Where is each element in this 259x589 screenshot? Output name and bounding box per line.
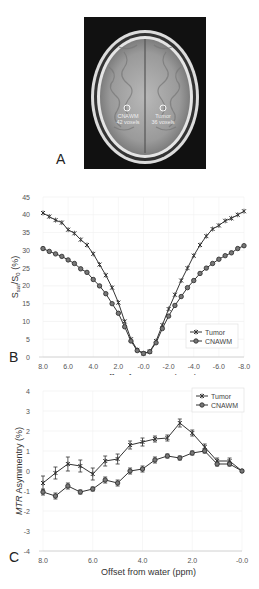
svg-text:40: 40 <box>22 211 30 218</box>
cnawm-marker-o <box>173 303 177 307</box>
svg-text:Tumor: Tumor <box>211 393 232 400</box>
tumor-marker-x <box>173 292 177 297</box>
cnawm-marker-o <box>190 451 194 455</box>
cnawm-marker-o <box>97 284 101 288</box>
svg-text:-6.0: -6.0 <box>213 363 225 370</box>
cnawm-marker-o <box>192 278 196 282</box>
cnawm-marker-o <box>110 301 114 305</box>
tumor-marker-x <box>60 220 64 225</box>
svg-text:-0.0: -0.0 <box>236 557 248 564</box>
cnawm-marker-o <box>104 292 108 296</box>
cnawm-marker-o <box>66 484 70 488</box>
x-axis-label: Offset from water (ppm) <box>101 567 196 577</box>
cnawm-marker-o <box>210 261 214 265</box>
svg-text:5: 5 <box>26 336 30 343</box>
svg-text:-4: -4 <box>24 548 30 555</box>
cnawm-marker-o <box>178 456 182 460</box>
cnawm-marker-o <box>165 454 169 458</box>
cnawm-marker-o <box>41 490 45 494</box>
tumor-marker-x <box>53 471 57 476</box>
legend: TumorCNAWM <box>186 324 238 348</box>
cnawm-marker-o <box>215 462 219 466</box>
svg-text:2.0: 2.0 <box>187 557 197 564</box>
legend-item-cnawm: CNAWM <box>190 338 232 345</box>
cnawm-marker-o <box>53 252 57 256</box>
x-axis-label: Offset from water (ppm) <box>102 373 197 375</box>
y-tick-labels: 051015202530354045 <box>22 194 30 361</box>
cnawm-marker-o <box>229 251 233 255</box>
chart-b-saturation: 0510152025303540458.06.04.02.0-0.0-2.0-4… <box>0 185 259 375</box>
svg-text:6.0: 6.0 <box>88 557 98 564</box>
svg-text:15: 15 <box>22 300 30 307</box>
cnawm-marker-o <box>60 254 64 258</box>
svg-text:-4.0: -4.0 <box>188 363 200 370</box>
svg-text:8.0: 8.0 <box>38 557 48 564</box>
tumor-marker-x <box>110 285 114 290</box>
svg-text:CNAWM: CNAWM <box>211 402 238 409</box>
tumor-marker-x <box>192 253 196 258</box>
svg-text:1: 1 <box>26 448 30 455</box>
tumor-marker-x <box>98 262 102 267</box>
cnawm-marker-o <box>53 494 57 498</box>
cnawm-marker-o <box>72 261 76 265</box>
x-tick-labels: 8.06.04.02.0-0.0-2.0-4.0-6.0-8.0 <box>38 363 250 370</box>
svg-text:2.0: 2.0 <box>114 363 124 370</box>
svg-text:Tumor: Tumor <box>205 329 226 336</box>
legend-cnawm-marker-o <box>194 339 198 343</box>
cnawm-marker-o <box>148 349 152 353</box>
svg-text:10: 10 <box>22 318 30 325</box>
svg-text:-2.0: -2.0 <box>163 363 175 370</box>
cnawm-marker-o <box>122 325 126 329</box>
svg-text:-1: -1 <box>24 488 30 495</box>
y-tick-labels: -4-3-2-101234 <box>24 388 30 555</box>
cnawm-marker-o <box>116 311 120 315</box>
cnawm-marker-o <box>217 257 221 261</box>
cnawm-marker-o <box>202 449 206 453</box>
svg-text:0: 0 <box>26 354 30 361</box>
cnawm-marker-o <box>140 467 144 471</box>
tumor-marker-x <box>190 431 194 436</box>
x-tick-labels: 8.06.04.02.0-0.0 <box>38 557 248 564</box>
cnawm-marker-o <box>66 258 70 262</box>
tumor-marker-x <box>204 234 208 239</box>
tumor-marker-x <box>54 218 58 223</box>
svg-text:3: 3 <box>26 408 30 415</box>
chart-c-mtr-asymmetry: -4-3-2-1012348.06.04.02.0-0.0Offset from… <box>0 385 259 585</box>
tumor-marker-x <box>91 472 95 477</box>
svg-text:-2: -2 <box>24 508 30 515</box>
cnawm-marker-o <box>41 246 45 250</box>
svg-text:20: 20 <box>22 282 30 289</box>
panel-label-b: B <box>9 349 18 365</box>
tumor-marker-x <box>223 218 227 223</box>
cnawm-marker-o <box>103 478 107 482</box>
svg-text:4.0: 4.0 <box>138 557 148 564</box>
cnawm-marker-o <box>166 314 170 318</box>
cnawm-marker-o <box>115 481 119 485</box>
svg-text:-8.0: -8.0 <box>238 363 250 370</box>
tumor-marker-x <box>104 273 108 278</box>
cnawm-marker-o <box>91 277 95 281</box>
cnawm-marker-o <box>91 487 95 491</box>
tumor-marker-x <box>66 227 70 232</box>
panel-label-c: C <box>9 549 19 565</box>
tumor-marker-x <box>91 251 95 256</box>
tumor-marker-x <box>79 237 83 242</box>
cnawm-marker-o <box>128 469 132 473</box>
y-axis-label: Ssat/S0 (%) <box>10 256 21 298</box>
svg-text:4.0: 4.0 <box>88 363 98 370</box>
tumor-marker-x <box>179 278 183 283</box>
cnawm-marker-o <box>240 469 244 473</box>
cnawm-marker-o <box>78 267 82 271</box>
mri-brain-image: CNAWM 42 voxels Tumor 36 voxels <box>84 17 206 169</box>
cnawm-marker-o <box>242 244 246 248</box>
svg-text:25: 25 <box>22 265 30 272</box>
legend-cnawm-marker-o <box>200 403 204 407</box>
tumor-marker-x <box>41 211 45 216</box>
tumor-marker-x <box>217 223 221 228</box>
tumor-marker-x <box>41 481 45 486</box>
tumor-marker-x <box>211 227 215 232</box>
cnawm-marker-o <box>47 249 51 253</box>
tumor-marker-x <box>72 231 76 236</box>
svg-text:CNAWM: CNAWM <box>205 338 232 345</box>
svg-text:30: 30 <box>22 247 30 254</box>
